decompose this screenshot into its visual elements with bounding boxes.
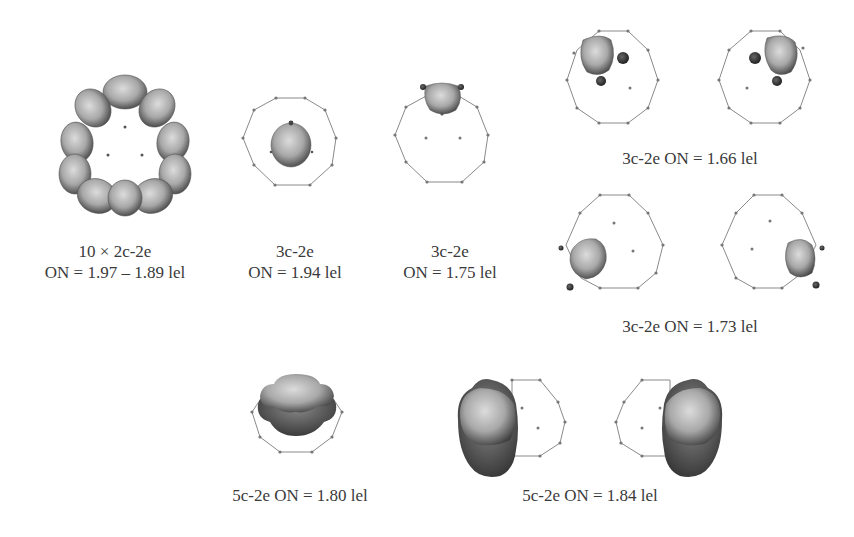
caption-line-1: 5c-2e ON = 1.80 lel [210,485,390,506]
center-bond-panel [240,95,350,205]
ring-bonds-panel [55,70,195,215]
center-caption: 3c-2e ON = 1.94 lel [225,241,365,283]
top-orbital-image [392,92,502,202]
ring-orbital-image [55,70,195,215]
five-center-single-panel [240,362,360,462]
five-center-single-orbital-image [240,362,360,462]
center-orbital-image [240,95,350,205]
caption-line-2: ON = 1.94 lel [225,262,365,283]
caption-line-1: 5c-2e ON = 1.84 lel [490,485,690,506]
five-center-single-caption: 5c-2e ON = 1.80 lel [210,485,390,506]
lower-pair-orbital-image [556,193,826,298]
upper-pair-orbital-image [563,28,823,138]
five-center-pair-caption: 5c-2e ON = 1.84 lel [490,485,690,506]
top-bond-panel [392,92,502,202]
lower-pair-caption: 3c-2e ON = 1.73 lel [590,316,790,337]
caption-line-2: ON = 1.75 lel [380,262,520,283]
five-center-pair-panel [450,370,730,480]
caption-line-1: 3c-2e [380,241,520,262]
caption-line-1: 3c-2e ON = 1.73 lel [590,316,790,337]
upper-pair-panel [563,28,823,138]
caption-line-1: 3c-2e ON = 1.66 lel [590,148,790,169]
ring-caption: 10 × 2c-2e ON = 1.97 – 1.89 lel [20,241,210,283]
top-caption: 3c-2e ON = 1.75 lel [380,241,520,283]
caption-line-2: ON = 1.97 – 1.89 lel [20,262,210,283]
five-center-pair-orbital-image [450,370,730,480]
caption-line-1: 10 × 2c-2e [20,241,210,262]
caption-line-1: 3c-2e [225,241,365,262]
lower-pair-panel [556,193,826,298]
upper-pair-caption: 3c-2e ON = 1.66 lel [590,148,790,169]
